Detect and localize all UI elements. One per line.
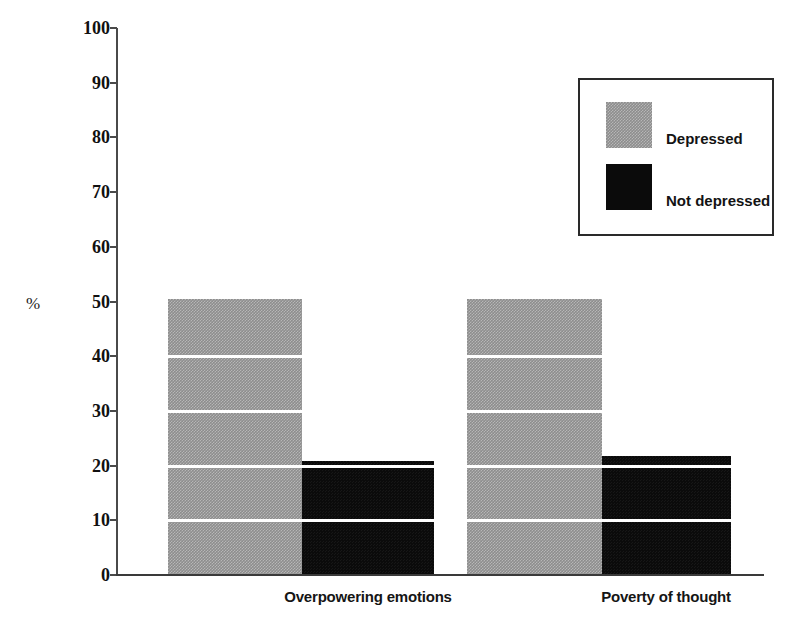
bar-depressed bbox=[467, 299, 602, 575]
bar-not-depressed bbox=[302, 461, 434, 575]
y-tick-mark bbox=[110, 27, 117, 29]
legend-label-not-depressed: Not depressed bbox=[666, 193, 770, 208]
y-tick-label: 20 bbox=[64, 457, 110, 475]
y-tick-label: 70 bbox=[64, 183, 110, 201]
x-axis-category-label: Poverty of thought bbox=[546, 588, 786, 605]
legend-item-not-depressed: Not depressed bbox=[606, 164, 770, 210]
y-tick-label-wrap: 80 bbox=[20, 128, 110, 146]
y-tick-label: 80 bbox=[64, 128, 110, 146]
legend-item-depressed: Depressed bbox=[606, 102, 743, 148]
legend-swatch-depressed-icon bbox=[606, 102, 652, 148]
y-tick-label-wrap: 30 bbox=[20, 402, 110, 420]
gridline bbox=[118, 465, 764, 468]
y-tick-label-wrap: 40 bbox=[20, 347, 110, 365]
y-tick-mark bbox=[110, 246, 117, 248]
legend-label-depressed: Depressed bbox=[666, 131, 743, 146]
gridline bbox=[118, 355, 764, 358]
bar-not-depressed bbox=[602, 456, 731, 575]
x-axis-line bbox=[116, 574, 764, 576]
y-tick-mark bbox=[110, 301, 117, 303]
y-tick-mark bbox=[110, 82, 117, 84]
y-tick-label-wrap: 50 bbox=[20, 293, 110, 311]
y-tick-mark bbox=[110, 136, 117, 138]
y-tick-mark bbox=[110, 191, 117, 193]
legend: Depressed Not depressed bbox=[578, 78, 774, 236]
y-tick-label: 30 bbox=[64, 402, 110, 420]
gridline bbox=[118, 519, 764, 522]
y-tick-label: 50 bbox=[64, 293, 110, 311]
y-tick-label-wrap: 90 bbox=[20, 74, 110, 92]
y-tick-label-wrap: 20 bbox=[20, 457, 110, 475]
y-tick-label-wrap: 0 bbox=[20, 566, 110, 584]
y-tick-label: 90 bbox=[64, 74, 110, 92]
y-tick-label-wrap: 70 bbox=[20, 183, 110, 201]
y-tick-label: 10 bbox=[64, 511, 110, 529]
bar-chart: % 0102030405060708090100 Overpowering em… bbox=[0, 0, 799, 639]
y-tick-mark bbox=[110, 465, 117, 467]
bar-depressed bbox=[168, 299, 302, 575]
y-tick-mark bbox=[110, 519, 117, 521]
y-tick-label: 60 bbox=[64, 238, 110, 256]
y-tick-mark bbox=[110, 410, 117, 412]
y-tick-label-wrap: 100 bbox=[20, 19, 110, 37]
legend-swatch-not-depressed-icon bbox=[606, 164, 652, 210]
y-tick-label-wrap: 60 bbox=[20, 238, 110, 256]
x-axis-category-label: Overpowering emotions bbox=[248, 588, 488, 605]
y-tick-label: 100 bbox=[64, 19, 110, 37]
y-tick-label: 40 bbox=[64, 347, 110, 365]
gridline bbox=[118, 410, 764, 413]
y-tick-mark bbox=[110, 355, 117, 357]
y-tick-label-wrap: 10 bbox=[20, 511, 110, 529]
y-tick-label: 0 bbox=[64, 566, 110, 584]
